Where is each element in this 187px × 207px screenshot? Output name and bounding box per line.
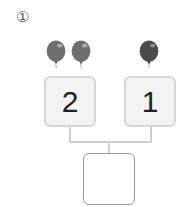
left-number-box: 2 — [44, 76, 96, 127]
balloon-icon — [70, 40, 92, 68]
right-number-box: 1 — [124, 76, 176, 127]
connector-line-right — [150, 127, 152, 141]
balloon-icon — [138, 40, 160, 68]
connector-line-horizontal — [69, 141, 152, 143]
connector-line-left — [69, 127, 71, 141]
problem-number-label: ① — [14, 9, 30, 25]
answer-box[interactable] — [83, 153, 135, 205]
right-number: 1 — [142, 85, 159, 119]
balloon-icon — [45, 40, 67, 68]
left-number: 2 — [62, 85, 79, 119]
